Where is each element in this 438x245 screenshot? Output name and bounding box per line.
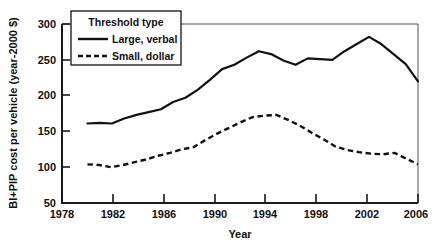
x-tick-label: 1982: [101, 208, 125, 220]
series-line-small-dollar: [87, 115, 418, 167]
x-tick-marks: [62, 194, 418, 203]
y-tick-label: 250: [38, 54, 56, 66]
line-chart: 300 250 200 150 100 50 1978 1982 1986 19…: [0, 0, 438, 245]
y-tick-label: 150: [38, 125, 56, 137]
x-axis-title: Year: [228, 228, 252, 240]
legend-label-large-verbal: Large, verbal: [112, 33, 177, 45]
x-tick-labels: 1978 1982 1986 1990 1994 1998 2002 2006: [50, 208, 428, 220]
y-tick-marks: [62, 24, 70, 203]
chart-legend: Threshold type Large, verbal Small, doll…: [71, 11, 181, 65]
x-tick-label: 2006: [404, 208, 428, 220]
x-tick-label: 1978: [50, 208, 74, 220]
x-tick-label: 1994: [253, 208, 278, 220]
y-axis-title: BI+PIP cost per vehicle (year-2000 $): [7, 17, 19, 209]
y-tick-label: 300: [38, 18, 56, 30]
y-tick-labels: 300 250 200 150 100 50: [38, 18, 56, 209]
y-tick-label: 100: [38, 161, 56, 173]
y-tick-label: 200: [38, 89, 56, 101]
x-tick-label: 1990: [203, 208, 227, 220]
chart-figure: 300 250 200 150 100 50 1978 1982 1986 19…: [0, 0, 438, 245]
x-tick-label: 2002: [355, 208, 379, 220]
x-tick-label: 1998: [304, 208, 328, 220]
x-tick-label: 1986: [152, 208, 176, 220]
legend-label-small-dollar: Small, dollar: [112, 50, 174, 62]
legend-title: Threshold type: [88, 16, 163, 28]
